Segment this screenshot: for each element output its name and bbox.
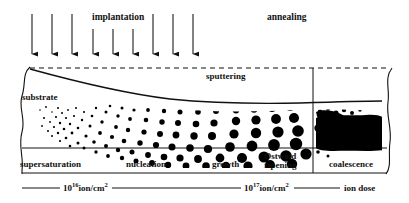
dose-1-base: 10	[63, 183, 72, 193]
stage-label-growth: growth	[212, 160, 239, 169]
diagram-svg	[0, 0, 409, 203]
figure-canvas: implantation annealing sputtering substr…	[0, 0, 409, 203]
sputtering-label: sputtering	[206, 72, 246, 81]
right-edge-wavy-line	[386, 68, 392, 174]
dose-1-unit: ion/cm	[79, 183, 105, 193]
dose-2-unit: ion/cm	[260, 183, 286, 193]
stage-label-nucleation: nucleation	[126, 160, 166, 169]
stage-label-supersaturation: supersaturation	[20, 160, 81, 169]
coalesced-layer	[316, 110, 384, 151]
stage-label-ostwald-ripening: Ostwald ripening	[264, 152, 297, 171]
implantation-label: implantation	[92, 13, 144, 23]
left-edge-wavy-line	[21, 67, 30, 174]
ion-dose-axis-label: ion dose	[344, 184, 375, 193]
dose-2-base: 10	[244, 183, 253, 193]
ostwald-line-2: ripening	[264, 161, 297, 170]
dose-2-unit-exponent: 2	[286, 181, 289, 188]
ion-dose-tick-1: 1016ion/cm2	[63, 182, 108, 193]
stage-label-coalescence: coalescence	[329, 160, 373, 169]
substrate-label: substrate	[22, 93, 58, 102]
ion-dose-tick-2: 1017ion/cm2	[244, 182, 289, 193]
dose-1-unit-exponent: 2	[105, 181, 108, 188]
annealing-label: annealing	[267, 13, 307, 23]
